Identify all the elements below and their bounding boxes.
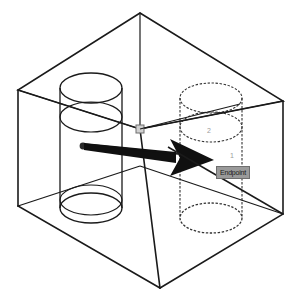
cad-wireframe-canvas[interactable] xyxy=(0,0,301,303)
hole-upper-left-top-ellipse xyxy=(60,73,122,103)
block-top-face xyxy=(18,13,283,129)
snap-leader-line xyxy=(168,147,283,214)
hole-lower-left-ellipse xyxy=(60,193,122,223)
hole-lower-right-ellipse xyxy=(180,203,242,233)
construction-line-center-to-upper-right xyxy=(140,101,283,129)
hole-upper-right-top-ellipse xyxy=(180,83,242,113)
osnap-tooltip: Endpoint xyxy=(216,166,250,179)
cad-drawing-viewport[interactable]: 2 1 Endpoint xyxy=(0,0,301,303)
snap-leader-line-upper xyxy=(140,104,240,129)
vertex-label-2: 2 xyxy=(207,127,211,135)
vertex-label-1: 1 xyxy=(230,152,234,160)
direction-arrow[interactable] xyxy=(84,139,214,176)
